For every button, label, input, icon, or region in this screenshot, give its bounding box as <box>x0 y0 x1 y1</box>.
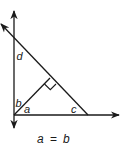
caption-right: b <box>63 132 70 146</box>
angle-label-d: d <box>17 50 24 62</box>
caption-equals: = <box>50 132 57 146</box>
angle-label-a: a <box>24 103 30 115</box>
geometry-diagram: d b a c a = b <box>0 0 123 147</box>
caption-left: a <box>37 132 44 146</box>
angle-label-c: c <box>71 103 77 115</box>
right-angle-marker <box>45 84 57 90</box>
angle-label-b: b <box>16 97 22 109</box>
